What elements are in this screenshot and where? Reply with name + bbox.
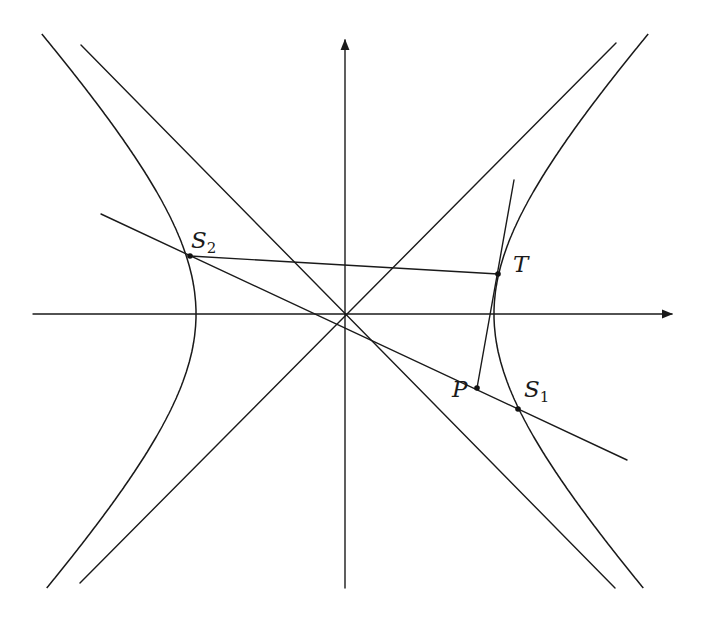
secant-line-s2-s1 <box>101 214 627 460</box>
label-t: T <box>513 251 530 277</box>
hyperbola-diagram: S2 T P S1 <box>0 0 705 618</box>
asymptote-positive-slope <box>80 43 616 583</box>
point-p <box>474 385 480 391</box>
label-p: P <box>451 376 468 402</box>
asymptote-negative-slope <box>81 45 615 588</box>
label-s2: S2 <box>191 227 216 257</box>
point-s2 <box>187 253 193 259</box>
hyperbola-left-branch <box>42 34 196 588</box>
point-t <box>495 271 501 277</box>
label-s1: S1 <box>524 376 549 406</box>
tangent-line-at-t <box>477 180 514 388</box>
hyperbola-right-branch <box>494 34 648 588</box>
point-s1 <box>515 406 521 412</box>
chord-s2-t <box>190 256 498 274</box>
diagram-canvas: S2 T P S1 <box>0 0 705 618</box>
